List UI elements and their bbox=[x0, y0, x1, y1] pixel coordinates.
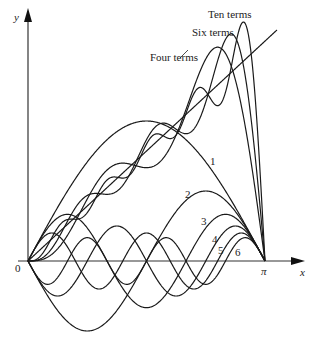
six-terms-curve bbox=[28, 34, 265, 261]
fourier-series-diagram: y x 0 π 1 2 3 4 5 6 Four terms Six terms… bbox=[0, 0, 312, 345]
plot-canvas: y x 0 π 1 2 3 4 5 6 Four terms Six terms… bbox=[0, 0, 312, 345]
origin-label: 0 bbox=[15, 262, 21, 274]
ten-terms-label: Ten terms bbox=[208, 8, 252, 20]
term-label-3: 3 bbox=[201, 215, 207, 227]
ten-terms-curve bbox=[28, 22, 265, 261]
x-axis-label: x bbox=[299, 266, 305, 278]
six-terms-label: Six terms bbox=[192, 26, 234, 38]
y-axis-arrow-icon bbox=[24, 8, 32, 22]
term-label-6: 6 bbox=[235, 246, 241, 258]
term-label-2: 2 bbox=[185, 188, 191, 200]
term-label-1: 1 bbox=[210, 155, 216, 167]
x-axis-arrow-icon bbox=[291, 257, 305, 265]
term-1-curve bbox=[28, 121, 265, 261]
term-label-5: 5 bbox=[218, 244, 224, 256]
curves-group bbox=[28, 22, 277, 331]
pi-label: π bbox=[261, 265, 267, 277]
four-terms-label: Four terms bbox=[150, 51, 198, 63]
y-axis-label: y bbox=[13, 11, 19, 23]
